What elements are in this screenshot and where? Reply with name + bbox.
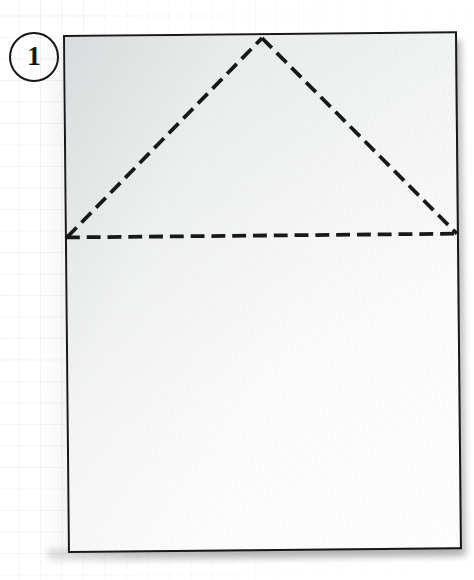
horizontal-valley-fold-line — [66, 234, 458, 238]
fold-lines-group — [65, 33, 460, 551]
origami-step-illustration: 1 — [0, 0, 474, 580]
right-diagonal-fold-line — [262, 36, 457, 235]
left-diagonal-fold-line — [65, 38, 264, 237]
step-number-badge: 1 — [9, 32, 59, 82]
step-number-label: 1 — [27, 43, 41, 72]
square-sheet-of-paper — [63, 31, 462, 553]
